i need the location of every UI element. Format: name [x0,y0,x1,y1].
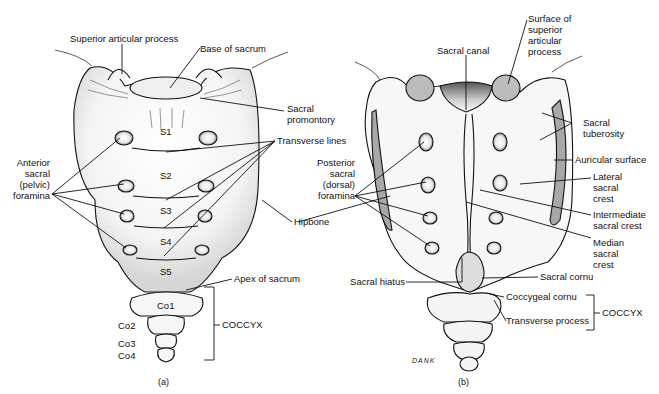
label-lateral-crest-3: crest [593,194,614,205]
label-surface-sup-art-3: articular [528,36,562,47]
label-coccygeal-cornu: Coccygeal cornu [506,292,577,303]
label-median-crest-3: crest [593,260,614,271]
label-sacral-hiatus: Sacral hiatus [350,277,405,288]
label-intermediate-crest-2: sacral crest [593,221,642,232]
label-anterior-foramina-4: foramina [13,191,50,202]
label-sacral-promontory-1: Sacral [287,104,314,115]
label-sacral-canal: Sacral canal [437,46,489,57]
segment-s3: S3 [160,205,172,216]
label-anterior-foramina-1: Anterior [17,158,50,169]
label-posterior-foramina-3: (dorsal) [323,180,355,191]
label-median-crest-1: Median [593,238,624,249]
label-anterior-foramina-2: sacral [25,169,50,180]
coccygeal-co1: Co1 [157,300,174,311]
label-base-of-sacrum: Base of sacrum [200,44,266,55]
label-transverse-process: Transverse process [506,316,589,327]
label-posterior-foramina-2: sacral [330,169,355,180]
label-surface-sup-art-2: superior [528,25,562,36]
artist-signature: DANK [412,357,435,364]
coccygeal-co2: Co2 [118,320,135,331]
label-auricular-surface: Auricular surface [575,155,646,166]
label-posterior-foramina-1: Posterior [317,158,355,169]
segment-s5: S5 [160,266,172,277]
label-coccyx-b: COCCYX [602,308,643,319]
label-median-crest-2: sacral [593,249,618,260]
coccygeal-co4: Co4 [118,350,135,361]
label-intermediate-crest-1: Intermediate [593,210,646,221]
label-superior-articular-process: Superior articular process [70,34,178,45]
sacrum-coccyx-diagram: Superior articular process Base of sacru… [0,0,659,394]
label-lateral-crest-2: sacral [593,183,618,194]
segment-s4: S4 [160,236,172,247]
label-anterior-foramina-3: (pelvic) [19,180,50,191]
label-hipbone: Hipbone [294,217,329,228]
label-lateral-crest-1: Lateral [593,172,622,183]
label-apex-of-sacrum: Apex of sacrum [234,274,300,285]
coccygeal-co3: Co3 [118,338,135,349]
label-sacral-promontory-2: promontory [287,115,335,126]
label-surface-sup-art-1: Surface of [528,14,571,25]
label-sacral-tuberosity-2: tuberosity [583,129,624,140]
label-surface-sup-art-4: process [528,47,561,58]
label-coccyx-a: COCCYX [222,320,263,331]
caption-b: (b) [458,377,469,387]
label-transverse-lines: Transverse lines [277,136,346,147]
segment-s1: S1 [160,126,172,137]
label-sacral-cornu: Sacral cornu [540,272,593,283]
caption-a: (a) [158,377,169,387]
label-posterior-foramina-4: foramina [318,191,355,202]
label-sacral-tuberosity-1: Sacral [583,118,610,129]
segment-s2: S2 [160,170,172,181]
